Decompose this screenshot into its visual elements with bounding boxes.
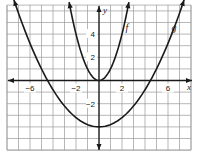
x-axis-label: x: [186, 82, 191, 92]
y-axis: [97, 6, 102, 150]
curve-label-g: g: [171, 22, 176, 33]
y-axis-up-arrow-icon: [97, 6, 102, 12]
y-tick-label: 2: [91, 53, 96, 62]
x-tick-label: 2: [120, 84, 125, 93]
parabola-graph: −6−22642−2 fg x y: [0, 0, 198, 155]
y-axis-label: y: [102, 5, 107, 15]
x-tick-label: −2: [71, 84, 81, 93]
x-axis-left-arrow-icon: [8, 78, 14, 83]
curve-label-f: f: [125, 22, 129, 33]
x-tick-label: −6: [25, 84, 35, 93]
y-tick-label: 4: [91, 30, 96, 39]
x-tick-label: 6: [166, 84, 171, 93]
y-axis-down-arrow-icon: [97, 144, 102, 150]
y-tick-label: −2: [86, 100, 96, 109]
